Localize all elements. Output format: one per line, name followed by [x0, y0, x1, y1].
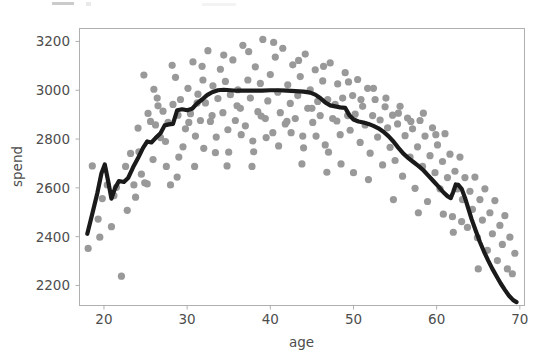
- scatter-point: [134, 124, 141, 131]
- scatter-point: [407, 118, 414, 125]
- scatter-point: [175, 154, 182, 161]
- scatter-point: [185, 119, 192, 126]
- scatter-point: [322, 141, 329, 148]
- scatter-point: [424, 198, 431, 205]
- scatter-point: [327, 59, 334, 66]
- y-tick-label: 3000: [36, 82, 70, 98]
- scatter-plot: 203040506070 220024002600280030003200 ag…: [0, 0, 542, 353]
- scatter-point: [429, 124, 436, 131]
- scatter-point: [217, 66, 224, 73]
- scatter-point: [184, 85, 191, 92]
- scatter-point: [461, 174, 468, 181]
- scatter-point: [214, 95, 221, 102]
- scatter-point: [479, 216, 486, 223]
- scatter-point: [267, 71, 274, 78]
- scatter-point: [298, 160, 305, 167]
- scatter-point: [337, 131, 344, 138]
- scatter-point: [242, 122, 249, 129]
- scatter-point: [225, 149, 232, 156]
- scatter-point: [124, 207, 131, 214]
- scatter-point: [192, 133, 199, 140]
- scatter-point: [204, 47, 211, 54]
- scatter-point: [108, 223, 115, 230]
- scatter-point: [149, 156, 156, 163]
- scatter-point: [144, 180, 151, 187]
- scatter-point: [279, 45, 286, 52]
- scatter-point: [223, 162, 230, 169]
- scatter-point: [270, 39, 277, 46]
- scatter-point: [439, 158, 446, 165]
- y-tick-label: 2200: [36, 277, 70, 293]
- scatter-point: [150, 86, 157, 93]
- scatter-point: [377, 116, 384, 123]
- scatter-point: [169, 62, 176, 69]
- scatter-point: [238, 131, 245, 138]
- scatter-point: [127, 150, 134, 157]
- scatter-point: [283, 118, 290, 125]
- x-tick-label: 50: [345, 311, 362, 327]
- scatter-point: [399, 173, 406, 180]
- scatter-point: [209, 82, 216, 89]
- scatter-point: [312, 133, 319, 140]
- scatter-point: [89, 162, 96, 169]
- scatter-point: [345, 78, 352, 85]
- scatter-point: [494, 257, 501, 264]
- scatter-point: [197, 117, 204, 124]
- scatter-point: [489, 230, 496, 237]
- scatter-point: [409, 125, 416, 132]
- scatter-point: [172, 74, 179, 81]
- scatter-point: [194, 91, 201, 98]
- scatter-point: [381, 103, 388, 110]
- scatter-point: [162, 138, 169, 145]
- scatter-point: [391, 157, 398, 164]
- scatter-point: [222, 78, 229, 85]
- x-tick-label: 40: [262, 311, 279, 327]
- scatter-point: [347, 127, 354, 134]
- scatter-point: [476, 196, 483, 203]
- scatter-point: [154, 102, 161, 109]
- scatter-point: [446, 151, 453, 158]
- scatter-point: [99, 195, 106, 202]
- scatter-point: [411, 185, 418, 192]
- scatter-point: [414, 143, 421, 150]
- scatter-point: [441, 130, 448, 137]
- scatter-point: [302, 51, 309, 58]
- scatter-point: [96, 234, 103, 241]
- scatter-point: [229, 56, 236, 63]
- scatter-point: [169, 101, 176, 108]
- scatter-point: [295, 57, 302, 64]
- scatter-point: [249, 137, 256, 144]
- scatter-point: [323, 169, 330, 176]
- scatter-point: [191, 163, 198, 170]
- clipped-header-dot: [86, 2, 91, 6]
- scatter-point: [263, 134, 270, 141]
- scatter-point: [213, 133, 220, 140]
- scatter-point: [118, 273, 125, 280]
- scatter-point: [374, 133, 381, 140]
- scatter-point: [401, 132, 408, 139]
- x-tick-label: 70: [511, 311, 528, 327]
- scatter-point: [250, 148, 257, 155]
- scatter-point: [199, 63, 206, 70]
- scatter-point: [464, 224, 471, 231]
- scatter-point: [138, 171, 145, 178]
- scatter-point: [200, 145, 207, 152]
- scatter-point: [244, 76, 251, 83]
- scatter-point: [337, 160, 344, 167]
- scatter-point: [395, 110, 402, 117]
- y-tick-label: 2400: [36, 229, 70, 245]
- scatter-point: [481, 185, 488, 192]
- scatter-point: [342, 69, 349, 76]
- scatter-point: [486, 209, 493, 216]
- scatter-point: [258, 113, 265, 120]
- scatter-point: [431, 169, 438, 176]
- y-tick-label: 2600: [36, 180, 70, 196]
- scatter-point: [259, 36, 266, 43]
- scatter-point: [299, 133, 306, 140]
- scatter-point: [426, 152, 433, 159]
- scatter-point: [182, 125, 189, 132]
- scatter-point: [309, 119, 316, 126]
- scatter-point: [95, 215, 102, 222]
- scatter-point: [220, 51, 227, 58]
- scatter-point: [333, 117, 340, 124]
